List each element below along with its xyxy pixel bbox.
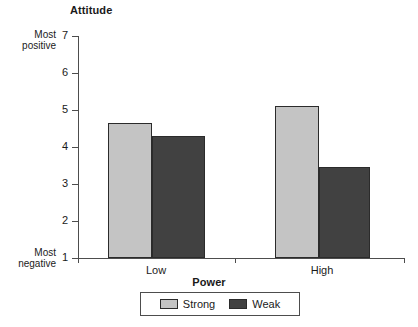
bar-chart-figure: Attitude Most positive Most negative 765… [0, 0, 418, 327]
x-tick-mark [78, 258, 79, 263]
y-tick-mark [72, 147, 79, 148]
y-axis-title: Attitude [70, 4, 112, 16]
y-tick-mark [72, 221, 79, 222]
legend-swatch-strong [160, 299, 178, 309]
x-axis-title: Power [0, 276, 418, 288]
bar-low-strong [108, 123, 152, 258]
legend-swatch-weak [229, 299, 247, 309]
bar-high-weak [319, 167, 370, 258]
legend-item-weak: Weak [229, 298, 280, 310]
y-tick-label: 7 [44, 30, 68, 41]
y-tick-label: 6 [44, 67, 68, 78]
x-axis-end-tick [404, 258, 405, 263]
legend: StrongWeak [140, 292, 300, 316]
legend-label-strong: Strong [183, 298, 215, 310]
y-tick-label: 4 [44, 141, 68, 152]
legend-label-weak: Weak [252, 298, 280, 310]
y-tick-label: 2 [44, 215, 68, 226]
bar-high-strong [275, 106, 319, 258]
x-axis-line [78, 258, 405, 259]
bar-low-weak [152, 136, 205, 258]
y-tick-mark [72, 36, 79, 37]
y-tick-label: 1 [44, 252, 68, 263]
y-tick-mark [72, 110, 79, 111]
legend-item-strong: Strong [160, 298, 215, 310]
y-tick-mark [72, 184, 79, 185]
x-tick-mark [235, 258, 236, 263]
y-axis-anchor-high-line2: positive [4, 40, 56, 51]
y-tick-label: 5 [44, 104, 68, 115]
y-tick-label: 3 [44, 178, 68, 189]
y-tick-mark [72, 73, 79, 74]
